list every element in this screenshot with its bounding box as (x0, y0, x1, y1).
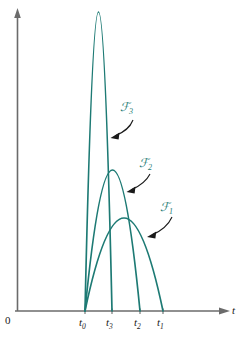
tick-label-t1: t1 (157, 317, 164, 331)
origin-label: 0 (5, 315, 11, 326)
x-axis-arrow-icon (219, 308, 230, 315)
tick-label-t0: t0 (79, 317, 86, 331)
leader-f1 (147, 217, 172, 238)
curve-f1 (85, 218, 163, 311)
leader-f3 (111, 120, 134, 139)
tick-label-t2: t2 (134, 317, 141, 331)
leader-f2 (127, 174, 151, 193)
figure-container: 0 t t0 t3 t2 t1 ℱ3 ℱ2 ℱ1 (0, 0, 250, 347)
y-axis-arrow-icon (14, 8, 21, 18)
curve-label-f1: ℱ1 (160, 201, 173, 216)
plot-svg (0, 0, 250, 347)
tick-label-t3: t3 (106, 317, 113, 331)
x-axis-label: t (232, 305, 235, 316)
y-axis (14, 8, 21, 311)
curve-label-f3: ℱ3 (120, 101, 133, 116)
x-axis (15, 308, 230, 315)
curve-label-f2: ℱ2 (139, 157, 152, 172)
